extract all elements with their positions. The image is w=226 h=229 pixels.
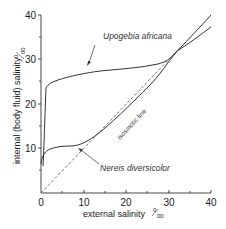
x-tick-label: 30 (163, 197, 175, 208)
nereis-label: Nereis diversicolor (100, 163, 171, 173)
y-tick-label: 10 (25, 143, 37, 154)
x-tick-label: 10 (78, 197, 90, 208)
y-tick-label: 30 (25, 54, 37, 65)
svg-text:0: 0 (13, 54, 19, 58)
x-tick-labels: 0 10 20 30 40 (38, 197, 217, 208)
svg-text:00: 00 (157, 213, 164, 219)
y-tick-labels: 40 30 20 10 (25, 10, 37, 154)
y-axis-title: internal (body fluid) salinity (12, 57, 22, 164)
y-tick-label: 20 (25, 99, 37, 110)
salinity-chart: 40 30 20 10 0 10 20 30 40 external salin… (0, 0, 226, 229)
svg-text:00: 00 (20, 47, 26, 54)
nereis-arrow-icon (78, 148, 99, 164)
x-tick-label: 0 (38, 197, 44, 208)
x-axis-title: external salinity (83, 209, 146, 219)
isosmotic-label: isosmotic line (116, 107, 148, 141)
upogebia-arrow-icon (87, 45, 95, 66)
y-tick-label: 40 (25, 10, 37, 21)
upogebia-label: Upogebia africana (103, 31, 172, 41)
x-tick-label: 20 (120, 197, 132, 208)
x-tick-label: 40 (205, 197, 217, 208)
upogebia-africana-curve (43, 27, 211, 166)
x-axis-unit: 0 00 (152, 207, 164, 219)
